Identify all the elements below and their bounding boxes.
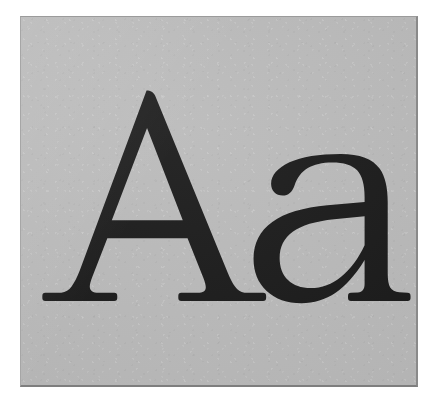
uppercase-a-glyph: [42, 90, 266, 300]
glyph-stage: [21, 17, 416, 385]
specimen-card: [20, 16, 418, 387]
lowercase-a-glyph: [254, 154, 411, 303]
typeface-sample-artwork: [21, 17, 416, 385]
specimen-root: Aa: [0, 0, 440, 409]
